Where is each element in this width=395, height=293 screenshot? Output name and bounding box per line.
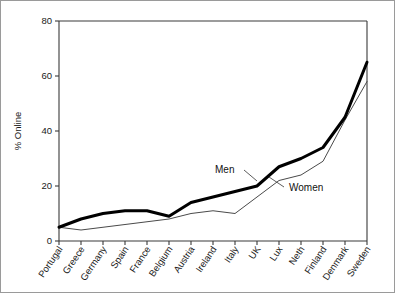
y-tick-label: 40 <box>41 125 52 136</box>
women-label-leader <box>269 177 284 187</box>
series-line-men <box>59 62 367 227</box>
x-tick-label: Neth <box>286 244 306 267</box>
x-tick-label: Lux <box>267 244 285 263</box>
x-tick-label: Spain <box>108 244 131 270</box>
men-label-leader <box>244 170 257 181</box>
y-tick-label: 60 <box>41 70 52 81</box>
x-tick-label: UK <box>246 243 263 261</box>
x-tick-label: Portugal <box>36 244 65 279</box>
line-chart: 020406080 PortugalGreeceGermanySpainFran… <box>1 1 395 293</box>
y-tick-label: 20 <box>41 180 52 191</box>
x-tick-label: Austria <box>171 243 197 274</box>
y-tick-group: 020406080 <box>41 15 59 246</box>
x-tick-group: PortugalGreeceGermanySpainFranceBelgiumA… <box>36 241 373 283</box>
y-axis-title: % Online <box>12 112 23 151</box>
x-tick-label: Ireland <box>193 244 218 274</box>
y-tick-label: 0 <box>47 235 52 246</box>
series-label-men: Men <box>215 164 234 175</box>
series-line-women <box>59 82 367 231</box>
chart-axes <box>59 21 367 241</box>
series-label-women: Women <box>289 182 323 193</box>
y-tick-label: 80 <box>41 15 52 26</box>
chart-figure: 020406080 PortugalGreeceGermanySpainFran… <box>0 0 395 293</box>
x-tick-label: Italy <box>222 244 241 265</box>
